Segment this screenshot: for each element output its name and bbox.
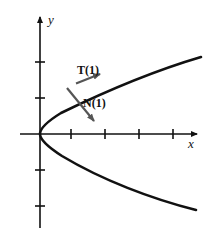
- figure-canvas: x y T(1) N(1): [0, 0, 217, 232]
- parabola-vector-figure: x y T(1) N(1): [0, 0, 217, 232]
- y-axis-label: y: [46, 12, 54, 27]
- normal-vector-label: N(1): [83, 96, 106, 110]
- x-axis: x: [20, 129, 197, 151]
- normal-vector: N(1): [67, 88, 106, 121]
- x-axis-label: x: [187, 136, 194, 151]
- tangent-vector-label: T(1): [77, 63, 99, 77]
- tangent-vector: T(1): [76, 63, 100, 84]
